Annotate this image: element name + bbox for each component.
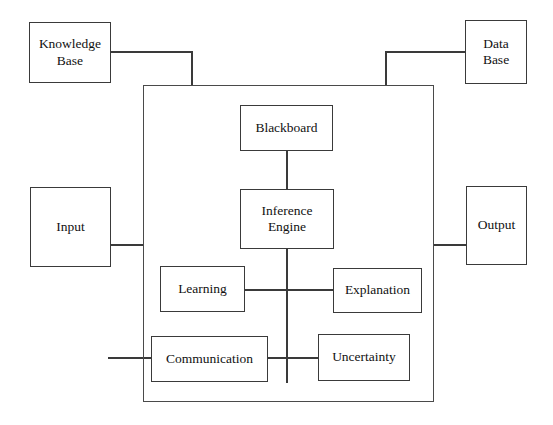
connector-knowledge-base-to-frame xyxy=(111,52,192,86)
expert-system-diagram: Knowledge Base Data Base Input Output Bl… xyxy=(0,0,553,425)
node-knowledge-base[interactable]: Knowledge Base xyxy=(29,22,111,83)
node-blackboard[interactable]: Blackboard xyxy=(240,105,333,151)
connector-data-base-to-frame xyxy=(386,52,465,86)
node-uncertainty[interactable]: Uncertainty xyxy=(318,334,410,381)
node-output[interactable]: Output xyxy=(466,186,527,265)
node-input[interactable]: Input xyxy=(30,187,111,267)
node-learning-label: Learning xyxy=(176,281,229,297)
node-uncertainty-label: Uncertainty xyxy=(330,349,398,365)
node-communication[interactable]: Communication xyxy=(151,336,268,382)
node-explanation-label: Explanation xyxy=(343,282,412,298)
node-input-label: Input xyxy=(54,219,87,235)
node-blackboard-label: Blackboard xyxy=(253,120,319,136)
node-inference-engine[interactable]: Inference Engine xyxy=(240,189,334,249)
node-inference-engine-label: Inference Engine xyxy=(260,203,315,236)
node-output-label: Output xyxy=(476,217,518,233)
node-explanation[interactable]: Explanation xyxy=(333,268,422,313)
node-learning[interactable]: Learning xyxy=(160,266,245,312)
node-data-base-label: Data Base xyxy=(481,36,511,69)
node-knowledge-base-label: Knowledge Base xyxy=(37,36,103,69)
node-data-base[interactable]: Data Base xyxy=(465,20,527,84)
node-communication-label: Communication xyxy=(164,351,255,367)
